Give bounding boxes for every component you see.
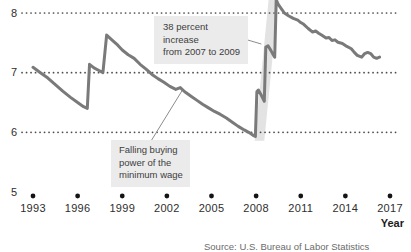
x-tick-dot-2017	[388, 194, 393, 199]
leader-falling	[151, 90, 182, 141]
x-tick-label-1999: 1999	[100, 202, 144, 215]
x-tick-label-2017: 2017	[368, 202, 411, 215]
x-tick-dot-2011	[298, 194, 303, 199]
x-tick-dot-2002	[164, 194, 169, 199]
leader-increase	[247, 40, 261, 44]
annotation-increase-line2: from 2007 to 2009	[163, 46, 244, 59]
annotation-falling-box: Falling buying power of the minimum wage	[111, 140, 190, 187]
x-tick-dot-1996	[75, 194, 80, 199]
x-tick-dot-2005	[209, 194, 214, 199]
y-tick-label-5: 5	[0, 186, 17, 199]
x-axis-title: Year	[376, 217, 404, 229]
x-tick-dot-2014	[343, 194, 348, 199]
x-tick-dot-1993	[31, 194, 36, 199]
x-tick-label-1996: 1996	[56, 202, 100, 215]
x-tick-label-2011: 2011	[279, 202, 323, 215]
source-note: Source: U.S. Bureau of Labor Statistics	[204, 241, 411, 252]
annotation-increase-line1: 38 percent increase	[163, 21, 244, 46]
annotation-falling-line2: power of the	[119, 157, 186, 170]
annotation-falling-line1: Falling buying	[119, 144, 186, 157]
x-tick-label-2008: 2008	[234, 202, 278, 215]
annotation-falling-line3: minimum wage	[119, 169, 186, 182]
y-tick-label-7: 7	[0, 66, 17, 79]
x-tick-label-2014: 2014	[323, 202, 367, 215]
x-tick-label-2005: 2005	[190, 202, 234, 215]
y-tick-label-6: 6	[0, 126, 17, 139]
y-tick-label-8: 8	[0, 7, 17, 20]
x-tick-label-2002: 2002	[145, 202, 189, 215]
annotation-increase-box: 38 percent increase from 2007 to 2009	[154, 16, 248, 64]
x-tick-dot-1999	[120, 194, 125, 199]
x-tick-dot-2008	[254, 194, 259, 199]
x-tick-label-1993: 1993	[11, 202, 55, 215]
